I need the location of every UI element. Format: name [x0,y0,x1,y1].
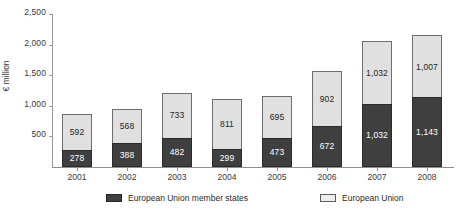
y-tick-label: 2,500 [24,7,46,17]
bar-stack[interactable]: 1,0071,143 [412,35,442,167]
bar-segment-european-union[interactable]: 811 [212,99,242,149]
bar-segment-member-states[interactable]: 482 [162,138,192,167]
x-axis-label: 2004 [202,172,252,186]
bar-value-label: 695 [270,113,284,122]
bar-value-label: 1,032 [366,131,388,140]
bar-segment-member-states[interactable]: 388 [112,143,142,167]
bar-segment-member-states[interactable]: 1,143 [412,97,442,167]
chart-legend: European Union member states European Un… [52,191,452,205]
x-axis-label: 2008 [402,172,452,186]
x-axis-label: 2003 [152,172,202,186]
legend-item-european-union: European Union [320,193,403,203]
bar-segment-member-states[interactable]: 672 [312,126,342,167]
bar-group: 902672 [302,14,352,167]
x-tick-mark [377,167,378,171]
x-axis-label: 2006 [302,172,352,186]
bar-segment-member-states[interactable]: 278 [62,150,92,167]
bar-value-label: 482 [170,148,184,157]
bar-group: 733482 [152,14,202,167]
bar-value-label: 811 [220,120,234,129]
bar-value-label: 278 [70,154,84,163]
bar-stack[interactable]: 902672 [312,71,342,167]
bar-value-label: 1,143 [416,128,438,137]
bar-segment-member-states[interactable]: 473 [262,138,292,167]
x-axis-labels: 20012002200320042005200620072008 [52,172,452,186]
bar-segment-european-union[interactable]: 695 [262,96,292,139]
y-tick-label: 500 [32,129,46,139]
bar-value-label: 473 [270,148,284,157]
x-tick-mark [277,167,278,171]
x-tick-mark [127,167,128,171]
bar-stack[interactable]: 1,0321,032 [362,41,392,167]
x-axis-label: 2007 [352,172,402,186]
x-axis-label: 2005 [252,172,302,186]
bar-value-label: 902 [320,95,334,104]
bar-segment-european-union[interactable]: 1,007 [412,35,442,97]
bar-segment-european-union[interactable]: 902 [312,71,342,126]
bar-group: 1,0071,143 [402,14,452,167]
bar-stack[interactable]: 568388 [112,109,142,167]
bar-value-label: 592 [70,128,84,137]
stacked-bar-chart: € million 5001,0001,5002,0002,500 592278… [0,0,466,212]
bar-group: 811299 [202,14,252,167]
bar-stack[interactable]: 733482 [162,93,192,167]
bar-value-label: 299 [220,154,234,163]
bar-value-label: 672 [320,142,334,151]
bar-series-container: 5922785683887334828112996954739026721,03… [52,14,452,167]
bar-group: 695473 [252,14,302,167]
bar-value-label: 1,007 [416,63,438,72]
bar-segment-european-union[interactable]: 1,032 [362,41,392,104]
x-tick-mark [327,167,328,171]
bar-value-label: 1,032 [366,69,388,78]
x-tick-mark [77,167,78,171]
y-tick-label: 2,000 [24,38,46,48]
bar-segment-member-states[interactable]: 1,032 [362,104,392,167]
x-axis-label: 2001 [52,172,102,186]
legend-label: European Union [342,193,403,203]
bar-segment-member-states[interactable]: 299 [212,149,242,167]
x-axis-label: 2002 [102,172,152,186]
y-axis-title: € million [1,60,11,91]
bar-value-label: 388 [120,151,134,160]
bar-group: 592278 [52,14,102,167]
bar-group: 1,0321,032 [352,14,402,167]
bar-segment-european-union[interactable]: 568 [112,109,142,144]
y-tick-label: 1,000 [24,99,46,109]
bar-segment-european-union[interactable]: 592 [62,114,92,150]
legend-swatch-icon [106,194,122,202]
bar-stack[interactable]: 592278 [62,114,92,167]
bar-value-label: 568 [120,122,134,131]
bar-stack[interactable]: 811299 [212,99,242,167]
plot-area: 5001,0001,5002,0002,500 5922785683887334… [52,14,452,167]
x-tick-mark [177,167,178,171]
y-tick-label: 1,500 [24,68,46,78]
legend-item-member-states: European Union member states [106,193,248,203]
legend-swatch-icon [320,194,336,202]
bar-stack[interactable]: 695473 [262,96,292,167]
bar-segment-european-union[interactable]: 733 [162,93,192,138]
x-tick-mark [227,167,228,171]
legend-label: European Union member states [128,193,248,203]
x-axis-line [52,167,454,168]
x-tick-mark [427,167,428,171]
bar-group: 568388 [102,14,152,167]
bar-value-label: 733 [170,111,184,120]
